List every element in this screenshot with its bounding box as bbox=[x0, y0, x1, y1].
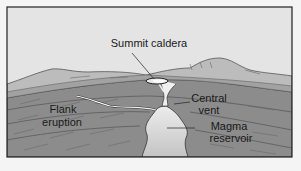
label-central-vent-1: Central bbox=[191, 92, 226, 104]
label-magma-reservoir-2: reservoir bbox=[210, 132, 253, 144]
label-flank-eruption-2: eruption bbox=[42, 116, 82, 128]
label-summit-caldera: Summit caldera bbox=[111, 37, 188, 49]
label-flank-eruption-1: Flank bbox=[50, 103, 77, 115]
caldera-inner bbox=[153, 79, 165, 82]
label-central-vent-2: vent bbox=[199, 104, 220, 116]
volcano-diagram: Summit caldera Flank eruption Central ve… bbox=[0, 0, 301, 171]
label-magma-reservoir-1: Magma bbox=[211, 120, 249, 132]
